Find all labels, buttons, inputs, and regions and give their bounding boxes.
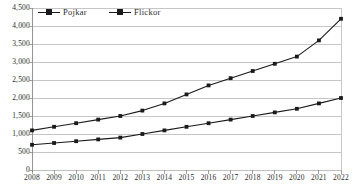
- chart-legend: Pojkar Flickor: [38, 8, 161, 17]
- cut-off-caption: [0, 186, 348, 193]
- x-axis-label: 2022: [326, 174, 353, 182]
- legend-label-flickor: Flickor: [134, 8, 161, 17]
- legend-entry-flickor[interactable]: Flickor: [109, 8, 161, 17]
- legend-entry-pojkar[interactable]: Pojkar: [38, 8, 87, 17]
- legend-label-pojkar: Pojkar: [63, 8, 87, 17]
- legend-marker-icon: [109, 8, 131, 17]
- legend-marker-icon: [38, 8, 60, 17]
